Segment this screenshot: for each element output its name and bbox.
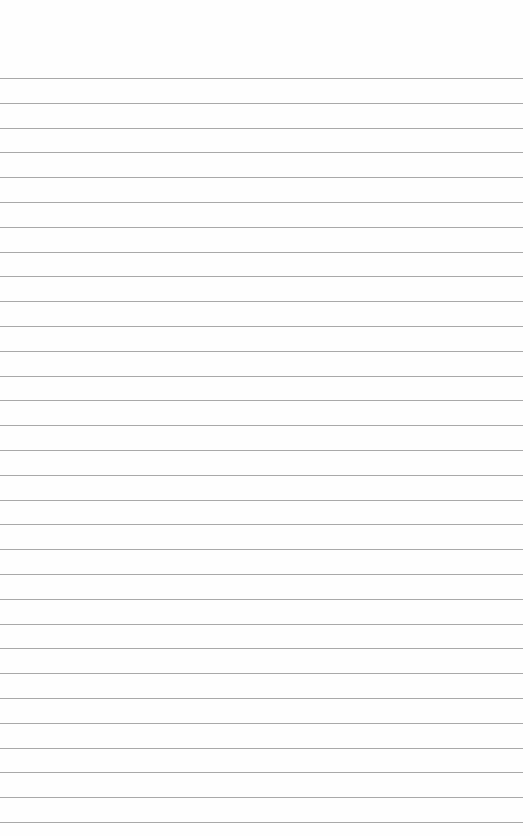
ruled-line	[0, 599, 523, 600]
ruled-line	[0, 252, 523, 253]
ruled-line	[0, 376, 523, 377]
ruled-line	[0, 648, 523, 649]
ruled-line	[0, 202, 523, 203]
lined-paper-page	[0, 0, 530, 836]
ruled-line	[0, 301, 523, 302]
ruled-line	[0, 500, 523, 501]
ruled-line	[0, 276, 523, 277]
ruled-line	[0, 425, 523, 426]
ruled-line	[0, 723, 523, 724]
ruled-line	[0, 400, 523, 401]
ruled-line	[0, 673, 523, 674]
ruled-line	[0, 624, 523, 625]
ruled-line	[0, 152, 523, 153]
ruled-line	[0, 748, 523, 749]
ruled-line	[0, 475, 523, 476]
ruled-line	[0, 524, 523, 525]
ruled-line	[0, 103, 523, 104]
ruled-line	[0, 128, 523, 129]
ruled-line	[0, 78, 523, 79]
ruled-line	[0, 177, 523, 178]
ruled-line	[0, 326, 523, 327]
ruled-line	[0, 698, 523, 699]
ruled-line	[0, 351, 523, 352]
ruled-line	[0, 227, 523, 228]
ruled-line	[0, 797, 523, 798]
faint-header-text	[0, 0, 530, 10]
ruled-line	[0, 822, 523, 823]
ruled-line	[0, 772, 523, 773]
ruled-line	[0, 549, 523, 550]
ruled-line	[0, 450, 523, 451]
ruled-line	[0, 574, 523, 575]
